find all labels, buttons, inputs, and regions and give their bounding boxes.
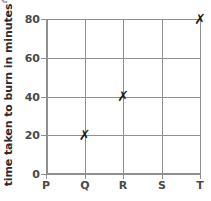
y-axis-tick-label: 60 bbox=[25, 53, 40, 64]
y-axis-tick-mark bbox=[41, 135, 46, 136]
y-axis-tick-mark bbox=[41, 97, 46, 98]
y-axis-tick-label: 20 bbox=[25, 130, 40, 141]
y-axis-tick-mark bbox=[41, 19, 46, 20]
data-point-marker: ✗ bbox=[194, 13, 207, 26]
y-axis-title: time taken to burn in minutes bbox=[0, 0, 16, 190]
y-axis-tick-labels: 020406080 bbox=[18, 19, 40, 174]
y-axis-tick-mark bbox=[41, 58, 46, 59]
gridline-vertical bbox=[85, 19, 86, 174]
x-axis-tick-label: Q bbox=[80, 180, 89, 192]
x-axis-tick-labels: PQRST bbox=[46, 180, 200, 196]
x-axis-tick-label: P bbox=[42, 180, 50, 192]
gridline-vertical bbox=[162, 19, 163, 174]
x-axis-tick-label: S bbox=[158, 180, 166, 192]
data-point-marker: ✗ bbox=[78, 129, 91, 142]
plot-area: ✗✗✗ bbox=[46, 19, 200, 174]
data-point-marker: ✗ bbox=[117, 90, 130, 103]
scatter-chart: c time taken to burn in minutes 02040608… bbox=[0, 0, 211, 201]
y-axis-title-text: time taken to burn in minutes bbox=[2, 4, 15, 187]
y-axis-tick-label: 80 bbox=[25, 14, 40, 25]
gridline-vertical bbox=[200, 19, 201, 174]
y-axis-tick-label: 40 bbox=[25, 92, 40, 103]
y-axis-tick-label: 0 bbox=[32, 169, 40, 180]
x-axis-tick-label: R bbox=[119, 180, 127, 192]
x-axis-tick-label: T bbox=[196, 180, 204, 192]
